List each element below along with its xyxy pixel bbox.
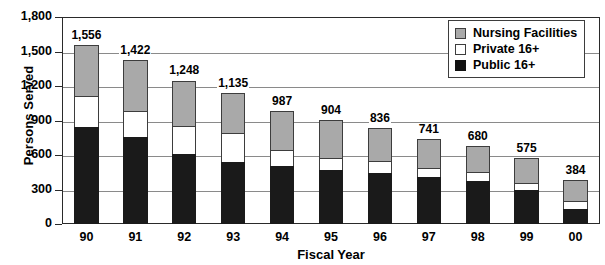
bar-total-label: 1,248: [168, 64, 200, 77]
x-axis-tick-label: 00: [569, 230, 583, 244]
stacked-bar-chart: Persons Served 03006009001,2001,5001,800…: [0, 0, 605, 265]
bar-stack: [466, 146, 490, 224]
nursing-facilities-swatch-icon: [455, 28, 466, 39]
bar-segment-private-16plus: [417, 168, 441, 177]
bar-group: 836: [368, 17, 392, 224]
bar-segment-public-16plus: [221, 162, 245, 224]
bar-segment-public-16plus: [123, 137, 147, 224]
y-axis-tick-label: 1,200: [2, 78, 52, 92]
y-axis-tick-label: 0: [2, 216, 52, 230]
bar-group: 1,248: [172, 17, 196, 224]
bar-segment-private-16plus: [514, 183, 538, 190]
y-axis-tick-label: 1,500: [2, 44, 52, 58]
x-axis-tick-label: 95: [324, 230, 338, 244]
legend-label-public-16plus: Public 16+: [473, 58, 535, 72]
bar-segment-private-16plus: [368, 161, 392, 173]
bar-stack: [417, 139, 441, 224]
bar-segment-nursing-facilities: [417, 139, 441, 168]
bar-stack: [74, 45, 98, 224]
bar-group: 1,556: [74, 17, 98, 224]
y-axis-tick-label: 300: [2, 182, 52, 196]
bar-stack: [514, 158, 538, 224]
bar-group: 741: [417, 17, 441, 224]
bar-segment-private-16plus: [221, 133, 245, 162]
bar-segment-public-16plus: [514, 190, 538, 224]
bar-total-label: 1,135: [217, 77, 249, 90]
bar-total-label: 836: [369, 112, 391, 125]
y-axis-tick: [55, 52, 62, 53]
bar-segment-nursing-facilities: [319, 120, 343, 158]
y-axis-tick: [55, 155, 62, 156]
bar-segment-nursing-facilities: [221, 93, 245, 133]
legend-item-nursing-facilities: Nursing Facilities: [455, 25, 577, 41]
x-axis-tick-label: 92: [177, 230, 191, 244]
public-16plus-swatch-icon: [455, 60, 466, 71]
x-axis-tick-label: 96: [373, 230, 387, 244]
bar-group: 1,135: [221, 17, 245, 224]
y-axis-tick: [55, 86, 62, 87]
legend-label-nursing-facilities: Nursing Facilities: [473, 26, 577, 40]
bar-total-label: 680: [467, 130, 489, 143]
bar-group: 904: [319, 17, 343, 224]
y-axis-tick-label: 1,800: [2, 9, 52, 23]
bar-segment-nursing-facilities: [563, 180, 587, 201]
y-axis-tick: [55, 190, 62, 191]
y-axis-tick-label: 900: [2, 113, 52, 127]
bar-total-label: 987: [271, 95, 293, 108]
bar-segment-private-16plus: [319, 158, 343, 170]
bar-stack: [368, 128, 392, 224]
bar-segment-nursing-facilities: [368, 128, 392, 161]
bar-segment-private-16plus: [172, 126, 196, 155]
bar-stack: [270, 111, 294, 224]
y-axis-tick: [55, 121, 62, 122]
bar-stack: [123, 60, 147, 224]
bar-segment-private-16plus: [74, 96, 98, 126]
legend-item-public-16plus: Public 16+: [455, 57, 577, 73]
x-axis-tick-label: 97: [422, 230, 436, 244]
y-axis-tick: [55, 17, 62, 18]
x-axis-tick-label: 93: [226, 230, 240, 244]
bar-segment-public-16plus: [319, 170, 343, 224]
bar-segment-public-16plus: [172, 154, 196, 224]
bar-segment-public-16plus: [270, 166, 294, 224]
bar-stack: [172, 81, 196, 225]
bar-stack: [563, 180, 587, 224]
y-axis-tick: [55, 224, 62, 225]
x-axis-tick-label: 94: [275, 230, 289, 244]
bar-segment-private-16plus: [466, 172, 490, 181]
x-axis-tick-label: 91: [128, 230, 142, 244]
bar-segment-nursing-facilities: [172, 81, 196, 126]
bar-segment-public-16plus: [74, 127, 98, 224]
bar-total-label: 384: [565, 164, 587, 177]
private-16plus-swatch-icon: [455, 44, 466, 55]
bar-stack: [221, 93, 245, 224]
legend-label-private-16plus: Private 16+: [473, 42, 539, 56]
bar-segment-private-16plus: [270, 150, 294, 166]
bar-segment-public-16plus: [417, 177, 441, 224]
bar-total-label: 741: [418, 123, 440, 136]
bar-group: 987: [270, 17, 294, 224]
bar-segment-public-16plus: [368, 173, 392, 224]
bar-segment-private-16plus: [123, 111, 147, 137]
x-axis-tick-label: 98: [471, 230, 485, 244]
bar-total-label: 575: [516, 142, 538, 155]
bar-segment-nursing-facilities: [74, 45, 98, 96]
bar-total-label: 1,556: [70, 29, 102, 42]
bar-segment-nursing-facilities: [514, 158, 538, 183]
x-axis-tick-label: 90: [80, 230, 94, 244]
bar-total-label: 1,422: [119, 44, 151, 57]
bar-group: 1,422: [123, 17, 147, 224]
bar-segment-nursing-facilities: [270, 111, 294, 151]
y-axis-tick-label: 600: [2, 147, 52, 161]
bar-stack: [319, 120, 343, 224]
bar-segment-public-16plus: [466, 181, 490, 224]
x-axis-title: Fiscal Year: [62, 247, 600, 262]
chart-legend: Nursing Facilities Private 16+ Public 16…: [448, 20, 585, 78]
legend-item-private-16plus: Private 16+: [455, 41, 577, 57]
bar-segment-nursing-facilities: [123, 60, 147, 111]
bar-segment-nursing-facilities: [466, 146, 490, 172]
bar-total-label: 904: [320, 104, 342, 117]
bar-segment-public-16plus: [563, 209, 587, 224]
bar-segment-private-16plus: [563, 201, 587, 209]
x-axis-tick-label: 99: [520, 230, 534, 244]
